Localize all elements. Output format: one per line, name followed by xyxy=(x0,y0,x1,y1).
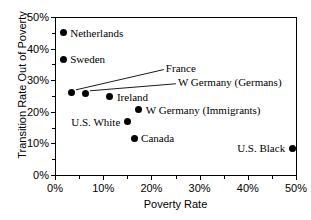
x-minor-tick xyxy=(224,175,225,179)
y-tick-label: 30% xyxy=(27,74,49,86)
point-label: U.S. Black xyxy=(237,142,285,154)
point-label: U.S. White xyxy=(71,116,120,128)
x-tick-10% xyxy=(103,175,104,180)
y-minor-tick xyxy=(52,159,56,160)
x-tick-label: 10% xyxy=(92,182,114,194)
x-tick-label: 20% xyxy=(140,182,162,194)
y-tick-40% xyxy=(51,49,56,50)
data-point xyxy=(106,93,113,100)
y-tick-label: 0% xyxy=(33,169,49,181)
x-minor-tick xyxy=(79,175,80,179)
x-minor-tick xyxy=(272,175,273,179)
y-tick-10% xyxy=(51,143,56,144)
data-point xyxy=(60,29,67,36)
data-point xyxy=(135,106,142,113)
plot-right-border xyxy=(296,17,297,175)
y-minor-tick xyxy=(52,64,56,65)
x-tick-label: 40% xyxy=(237,182,259,194)
y-minor-tick xyxy=(52,96,56,97)
x-minor-tick xyxy=(176,175,177,179)
data-point xyxy=(124,118,131,125)
y-tick-label: 10% xyxy=(27,137,49,149)
point-label: W Germany (Germans) xyxy=(178,76,282,88)
x-tick-label: 0% xyxy=(47,182,63,194)
x-axis-title: Poverty Rate xyxy=(55,198,296,210)
x-minor-tick xyxy=(127,175,128,179)
y-tick-label: 20% xyxy=(27,106,49,118)
y-tick-20% xyxy=(51,112,56,113)
point-label: France xyxy=(166,62,196,74)
scatter-chart: Transition Rate Out of Poverty 0%10%20%3… xyxy=(0,0,311,220)
data-point xyxy=(131,135,138,142)
data-point xyxy=(68,89,75,96)
point-label: W Germany (Immigrants) xyxy=(146,104,261,116)
x-tick-20% xyxy=(151,175,152,180)
point-label: Ireland xyxy=(117,91,148,103)
x-tick-50% xyxy=(296,175,297,180)
x-tick-0% xyxy=(55,175,56,180)
point-label: Sweden xyxy=(70,53,105,65)
plot-area: 0%10%20%30%40%50% 0%10%20%30%40%50% Neth… xyxy=(55,17,296,175)
x-tick-40% xyxy=(248,175,249,180)
y-tick-50% xyxy=(51,17,56,18)
point-label: Netherlands xyxy=(70,27,123,39)
data-point xyxy=(289,145,296,152)
y-minor-tick xyxy=(52,33,56,34)
y-tick-30% xyxy=(51,80,56,81)
y-tick-label: 40% xyxy=(27,43,49,55)
data-point xyxy=(60,56,67,63)
y-minor-tick xyxy=(52,128,56,129)
x-tick-label: 50% xyxy=(285,182,307,194)
y-tick-label: 50% xyxy=(27,11,49,23)
plot-top-border xyxy=(55,17,297,18)
x-tick-30% xyxy=(200,175,201,180)
point-label: Canada xyxy=(141,132,174,144)
x-tick-label: 30% xyxy=(189,182,211,194)
data-point xyxy=(82,90,89,97)
